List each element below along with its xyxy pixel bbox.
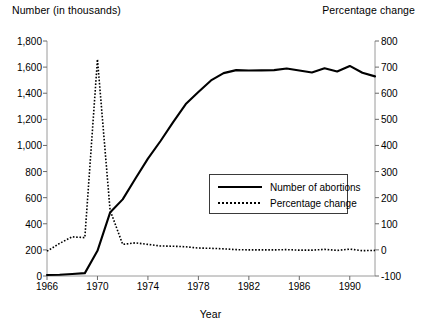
left-tick-label: 600 [25,192,42,203]
right-tick-label: 200 [381,192,398,203]
legend-label-1: Percentage change [270,198,357,209]
left-tick-label: 1,800 [17,36,42,47]
x-tick-label: 1978 [187,281,209,292]
right-tick-label: 700 [381,62,398,73]
left-tick-label: 800 [25,166,42,177]
left-tick-label: 400 [25,218,42,229]
x-tick-label: 1990 [339,281,361,292]
right-tick-label: -100 [381,271,401,282]
x-tick-label: 1966 [36,281,58,292]
left-tick-labels: 02004006008001,0001,2001,4001,6001,800 [0,0,42,322]
left-axis-ticks [43,41,47,276]
left-tick-label: 1,600 [17,62,42,73]
right-tick-label: 0 [381,244,387,255]
right-tick-label: 100 [381,218,398,229]
right-tick-label: 400 [381,140,398,151]
x-tick-label: 1970 [86,281,108,292]
legend-solid-line-icon [218,182,262,192]
series-number-of-abortions [47,66,375,275]
series-percentage-change [47,59,375,251]
x-tick-label: 1974 [137,281,159,292]
chart-container: Number (in thousands) Percentage change … [0,0,421,322]
legend-item-number-of-abortions: Number of abortions [218,180,361,194]
right-tick-label: 300 [381,166,398,177]
legend-dotted-line-icon [218,198,262,208]
right-tick-labels: -1000100200300400500600700800 [381,0,421,322]
left-tick-label: 0 [36,271,42,282]
right-tick-label: 800 [381,36,398,47]
left-tick-label: 1,000 [17,140,42,151]
chart-legend: Number of abortions Percentage change [209,174,348,214]
axis-lines [47,41,375,276]
legend-item-percentage-change: Percentage change [218,196,357,210]
x-axis-ticks [47,276,350,280]
plot-area [0,0,421,322]
x-tick-label: 1982 [238,281,260,292]
left-tick-label: 200 [25,244,42,255]
left-tick-label: 1,200 [17,114,42,125]
x-tick-label: 1986 [288,281,310,292]
right-tick-label: 500 [381,114,398,125]
x-tick-labels: 1966197019741978198219861990 [0,281,421,297]
left-tick-label: 1,400 [17,88,42,99]
legend-label-0: Number of abortions [270,182,361,193]
right-tick-label: 600 [381,88,398,99]
